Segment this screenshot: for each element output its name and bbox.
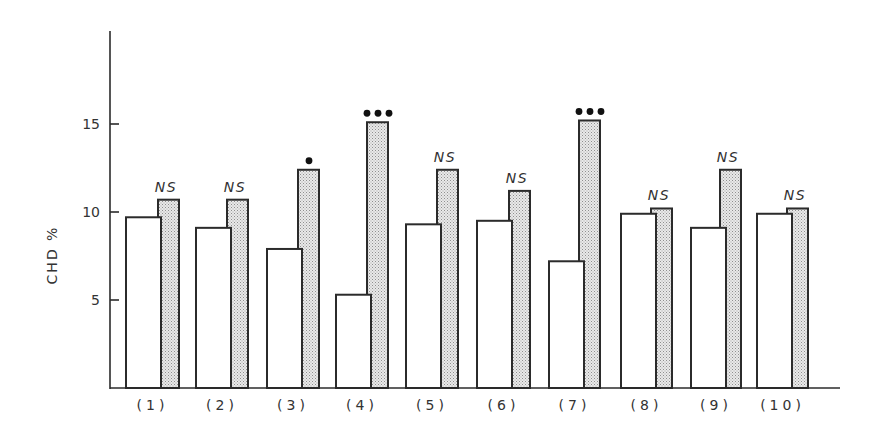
bars-group	[126, 120, 808, 388]
annotation-ns: NS	[155, 179, 177, 195]
bar-chart: NSNSNSNSNSNSNS (1)(2)(3)(4)(5)(6)(7)(8)(…	[0, 0, 883, 428]
y-tick-label: 15	[82, 116, 100, 132]
significance-dot-icon	[576, 108, 583, 115]
annotations-group: NSNSNSNSNSNSNS	[155, 108, 806, 203]
x-tick-label: (3)	[277, 397, 309, 413]
x-tick-label: (8)	[631, 397, 663, 413]
significance-dot-icon	[587, 108, 594, 115]
significance-dot-icon	[364, 110, 371, 117]
x-tick-labels: (1)(2)(3)(4)(5)(6)(7)(8)(9)(10)	[137, 397, 805, 413]
x-tick-label: (5)	[416, 397, 448, 413]
bar-white	[621, 214, 656, 388]
significance-dot-icon	[306, 157, 313, 164]
x-tick-label: (6)	[488, 397, 520, 413]
y-tick-labels: 51015	[82, 116, 100, 308]
annotation-ns: NS	[648, 187, 670, 203]
bar-white	[196, 228, 231, 388]
annotation-ns: NS	[506, 170, 528, 186]
x-tick-label: (10)	[760, 397, 805, 413]
bar-white	[477, 221, 512, 388]
annotation-ns: NS	[717, 149, 739, 165]
y-tick-label: 10	[82, 204, 100, 220]
annotation-ns: NS	[784, 187, 806, 203]
significance-dot-icon	[386, 110, 393, 117]
y-axis-label: CHD %	[44, 226, 60, 285]
bar-white	[126, 217, 161, 388]
x-tick-label: (9)	[700, 397, 732, 413]
x-tick-label: (2)	[206, 397, 238, 413]
x-tick-label: (4)	[346, 397, 378, 413]
annotation-ns: NS	[224, 179, 246, 195]
bar-white	[406, 224, 441, 388]
bar-white	[757, 214, 792, 388]
y-tick-label: 5	[91, 292, 100, 308]
bar-white	[336, 295, 371, 388]
x-tick-label: (7)	[559, 397, 591, 413]
bar-white	[691, 228, 726, 388]
annotation-ns: NS	[434, 149, 456, 165]
x-tick-label: (1)	[137, 397, 169, 413]
bar-white	[267, 249, 302, 388]
bar-white	[549, 261, 584, 388]
significance-dot-icon	[598, 108, 605, 115]
significance-dot-icon	[375, 110, 382, 117]
